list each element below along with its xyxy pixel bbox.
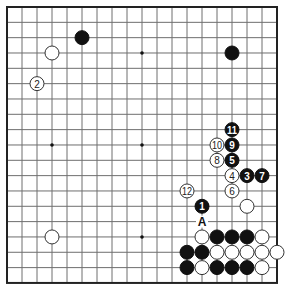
white-stone-icon [255, 230, 269, 244]
black-stone-move-11: 11 [225, 123, 239, 137]
star-point [140, 235, 144, 239]
white-stone [255, 230, 269, 244]
white-stone-icon [210, 245, 224, 259]
white-stone-move-6: 6 [225, 184, 239, 198]
black-stone [75, 31, 89, 45]
black-stone-move-3: 3 [240, 169, 254, 183]
black-stone [210, 230, 224, 244]
black-stone-icon [210, 261, 224, 275]
black-stone-icon [225, 261, 239, 275]
star-point [140, 51, 144, 55]
black-stone-move-7: 7 [255, 169, 269, 183]
move-number: 7 [259, 171, 265, 182]
white-stone [255, 261, 269, 275]
black-stone [225, 261, 239, 275]
move-number: 6 [229, 186, 235, 197]
black-stone-icon [225, 46, 239, 60]
black-stone-icon [225, 230, 239, 244]
star-point [140, 143, 144, 147]
white-stone-move-2: 2 [30, 77, 44, 91]
black-stone-move-5: 5 [225, 153, 239, 167]
move-number: 2 [34, 79, 40, 90]
white-stone [240, 245, 254, 259]
black-stone [195, 245, 209, 259]
white-stone [255, 245, 269, 259]
white-stone-icon [270, 245, 284, 259]
white-stone-move-8: 8 [210, 153, 224, 167]
white-stone-icon [195, 230, 209, 244]
marker-label: A [196, 215, 208, 229]
black-stone-icon [180, 261, 194, 275]
black-stone-move-1: 1 [195, 199, 209, 213]
white-stone-icon [45, 46, 59, 60]
move-number: 10 [212, 140, 222, 151]
move-number: 5 [229, 155, 235, 166]
white-stone [210, 245, 224, 259]
black-stone-icon [240, 261, 254, 275]
move-number: 12 [182, 186, 192, 197]
white-stone [195, 230, 209, 244]
black-stone-icon [240, 230, 254, 244]
marker-text: A [198, 215, 207, 229]
black-stone [240, 261, 254, 275]
white-stone [195, 261, 209, 275]
move-number: 11 [227, 125, 237, 136]
black-stone-icon [210, 230, 224, 244]
white-stone-move-4: 4 [225, 169, 239, 183]
position-markers: A [196, 215, 208, 229]
white-stone-icon [255, 245, 269, 259]
white-stone-icon [195, 261, 209, 275]
white-stone-icon [255, 261, 269, 275]
move-number: 9 [229, 140, 235, 151]
white-stone-icon [240, 199, 254, 213]
star-point [50, 143, 54, 147]
white-stone [240, 199, 254, 213]
move-number: 3 [244, 171, 250, 182]
move-number: 1 [199, 201, 205, 212]
white-stone [45, 230, 59, 244]
move-number: 4 [229, 171, 235, 182]
black-stone [240, 230, 254, 244]
black-stone [180, 261, 194, 275]
black-stone-icon [75, 31, 89, 45]
move-number: 8 [214, 155, 220, 166]
white-stone-move-12: 12 [180, 184, 194, 198]
black-stone-move-9: 9 [225, 138, 239, 152]
black-stone [225, 230, 239, 244]
black-stone-icon [195, 245, 209, 259]
white-stone [270, 245, 284, 259]
white-stone [45, 46, 59, 60]
white-stone-icon [45, 230, 59, 244]
black-stone [180, 245, 194, 259]
black-stone [210, 261, 224, 275]
white-stone [225, 245, 239, 259]
white-stone-move-10: 10 [210, 138, 224, 152]
white-stone-icon [225, 245, 239, 259]
white-stone-icon [240, 245, 254, 259]
black-stone [225, 46, 239, 60]
black-stone-icon [180, 245, 194, 259]
go-board: A 213456789101112 [0, 0, 288, 291]
